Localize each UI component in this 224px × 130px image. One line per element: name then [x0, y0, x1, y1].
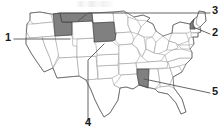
state-north-dakota	[92, 12, 114, 23]
map-figure: 1 2 3 4 5	[0, 0, 224, 130]
state-michigan	[138, 21, 156, 37]
us-map-graphic	[0, 0, 224, 130]
state-tennessee	[136, 61, 168, 69]
state-south-dakota-highlighted	[93, 22, 116, 42]
state-shapes-unhighlighted	[26, 11, 206, 117]
state-ohio	[154, 36, 169, 54]
callout-label-4: 4	[85, 117, 91, 128]
state-nebraska	[94, 41, 119, 55]
state-florida	[155, 86, 186, 114]
state-iowa	[115, 32, 134, 45]
state-louisiana	[114, 74, 139, 89]
state-kansas	[97, 54, 119, 66]
callout-label-1: 1	[5, 32, 11, 43]
callout-label-5: 5	[212, 86, 218, 97]
state-oklahoma	[97, 65, 119, 79]
state-arkansas	[119, 63, 137, 75]
state-arizona	[53, 57, 79, 78]
state-wyoming	[72, 21, 94, 39]
state-oregon	[26, 22, 55, 38]
state-maryland	[178, 45, 190, 49]
callout-label-3: 3	[212, 5, 218, 16]
state-connecticut	[191, 33, 198, 37]
callout-label-2: 2	[212, 27, 218, 38]
